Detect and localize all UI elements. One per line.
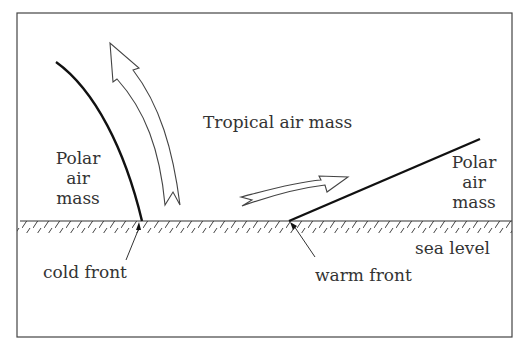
rising-air-arrow (110, 43, 180, 205)
polar-word: Polar (448, 152, 500, 172)
polar-air-mass-left-label: Polar air mass (52, 148, 104, 208)
air-word: air (52, 168, 104, 188)
polar-word: Polar (52, 148, 104, 168)
warm-front-label: warm front (315, 265, 412, 285)
tropical-air-mass-label: Tropical air mass (203, 112, 352, 132)
sea-level-label: sea level (415, 238, 490, 258)
mass-word: mass (448, 192, 500, 212)
air-word: air (448, 172, 500, 192)
polar-air-mass-right-label: Polar air mass (448, 152, 500, 212)
ground-hatching (17, 221, 512, 233)
cold-front-label: cold front (43, 262, 127, 282)
mass-word: mass (52, 188, 104, 208)
